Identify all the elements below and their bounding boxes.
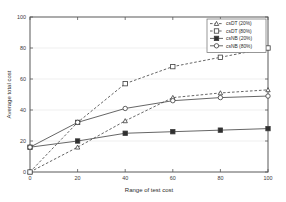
series-line xyxy=(30,96,268,147)
legend-entry-label: csNB (80%) xyxy=(226,44,252,49)
data-point-marker xyxy=(75,139,79,143)
legend-entry-label: csNB (20%) xyxy=(226,36,252,41)
legend-entry-label: csDT (20%) xyxy=(226,21,252,26)
y-tick-label: 0 xyxy=(23,169,26,175)
chart-figure: 020406080100 020406080100 Range of test … xyxy=(0,0,286,202)
chart-legend: csDT (20%)csDT (80%)csNB (20%)csNB (80%) xyxy=(207,19,266,53)
data-point-marker xyxy=(28,170,32,174)
y-tick-label: 20 xyxy=(20,138,26,144)
data-point-marker xyxy=(171,99,175,103)
series-line xyxy=(30,90,268,172)
grid-lines xyxy=(30,48,268,141)
data-point-marker xyxy=(218,55,222,59)
data-point-marker xyxy=(28,145,32,149)
legend-marker-sample xyxy=(214,44,218,48)
x-tick-label: 100 xyxy=(264,175,273,181)
y-tick-label: 60 xyxy=(20,76,26,82)
data-point-marker xyxy=(171,130,175,134)
y-tick-label: 80 xyxy=(20,45,26,51)
x-axis-label: Range of test cost xyxy=(125,187,174,193)
data-point-marker xyxy=(123,119,127,123)
line-chart: 020406080100 020406080100 Range of test … xyxy=(0,0,286,202)
series-0 xyxy=(28,88,270,174)
x-tick-label: 20 xyxy=(75,175,81,181)
data-point-marker xyxy=(218,91,222,95)
data-point-marker xyxy=(75,120,79,124)
x-tick-label: 0 xyxy=(29,175,32,181)
data-point-marker xyxy=(123,106,127,110)
data-point-marker xyxy=(171,64,175,68)
y-tick-label: 100 xyxy=(17,14,26,20)
legend-marker-sample xyxy=(214,36,218,40)
data-point-marker xyxy=(123,131,127,135)
x-tick-label: 60 xyxy=(170,175,176,181)
data-point-marker xyxy=(266,94,270,98)
x-tick-label: 80 xyxy=(217,175,223,181)
data-point-marker xyxy=(218,95,222,99)
data-point-marker xyxy=(218,128,222,132)
data-point-marker xyxy=(75,145,79,149)
legend-marker-sample xyxy=(214,29,218,33)
data-point-marker xyxy=(123,81,127,85)
legend-entry-label: csDT (80%) xyxy=(226,29,252,34)
x-tick-label: 40 xyxy=(122,175,128,181)
data-point-marker xyxy=(266,88,270,92)
y-tick-label: 40 xyxy=(20,107,26,113)
data-point-marker xyxy=(266,126,270,130)
data-point-marker xyxy=(266,46,270,50)
series-line xyxy=(30,129,268,148)
y-axis-label: Average total cost xyxy=(6,70,12,118)
